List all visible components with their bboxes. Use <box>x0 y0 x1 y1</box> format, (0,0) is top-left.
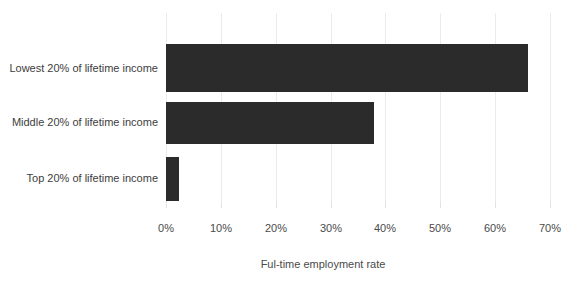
category-axis: Lowest 20% of lifetime income Middle 20%… <box>0 13 158 202</box>
tick-label: 10% <box>191 222 251 235</box>
bar <box>166 44 528 92</box>
tick-mark <box>495 202 496 208</box>
tick-label: 20% <box>246 222 306 235</box>
gridline-50 <box>440 13 441 202</box>
bar <box>166 102 374 144</box>
gridline-40 <box>385 13 386 202</box>
tick-mark <box>221 202 222 208</box>
tick-label: 40% <box>355 222 415 235</box>
gridline-60 <box>495 13 496 202</box>
tick-mark <box>276 202 277 208</box>
bar-chart: Lowest 20% of lifetime income Middle 20%… <box>0 0 576 285</box>
tick-label: 0% <box>136 222 196 235</box>
tick-mark <box>331 202 332 208</box>
gridline-70 <box>550 13 551 202</box>
category-label: Middle 20% of lifetime income <box>6 116 158 129</box>
tick-label: 50% <box>410 222 470 235</box>
tick-label: 60% <box>465 222 525 235</box>
bar <box>166 157 179 201</box>
tick-mark <box>385 202 386 208</box>
x-axis-title: Ful-time employment rate <box>0 257 576 271</box>
category-label: Lowest 20% of lifetime income <box>6 62 158 75</box>
tick-label: 70% <box>520 222 576 235</box>
plot-area <box>166 13 550 202</box>
tick-mark <box>166 202 167 208</box>
tick-mark <box>440 202 441 208</box>
category-label: Top 20% of lifetime income <box>6 172 158 185</box>
tick-mark <box>550 202 551 208</box>
tick-label: 30% <box>301 222 361 235</box>
